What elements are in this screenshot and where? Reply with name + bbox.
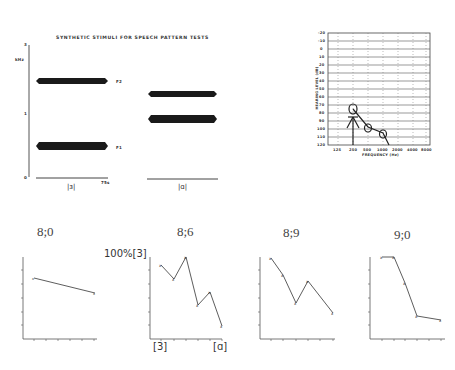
svg-text:x: x [439,318,442,323]
point-markers: xxx xxx xxx xx xxx xx [159,255,442,329]
chart-8-6 [148,257,222,341]
chart-9-0 [368,257,445,341]
chart-8-9 [258,257,335,341]
svg-text:x: x [331,311,334,316]
svg-text:x: x [196,303,199,308]
svg-text:x: x [93,291,95,296]
age-charts-plot: x x [0,0,455,370]
chart-8-0: x x [21,257,97,341]
svg-text:x: x [415,314,418,319]
svg-text:x: x [220,324,223,329]
svg-text:x: x [380,255,383,260]
svg-text:x: x [32,276,34,281]
